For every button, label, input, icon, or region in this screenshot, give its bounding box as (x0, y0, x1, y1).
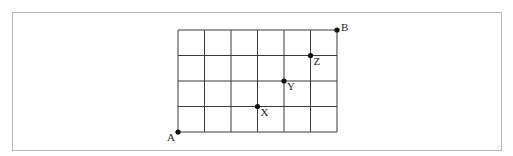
point-label: X (261, 106, 269, 118)
grid-diagram: ABXYZ (0, 0, 513, 156)
point-marker (308, 53, 313, 58)
point-marker (281, 78, 286, 83)
point-label: Z (314, 55, 321, 67)
grid-lines (178, 30, 337, 132)
point-y: Y (281, 78, 295, 92)
point-marker (175, 129, 180, 134)
point-a: A (167, 129, 181, 143)
point-b: B (334, 21, 348, 33)
point-label: A (167, 131, 175, 143)
point-marker (255, 104, 260, 109)
point-marker (334, 27, 339, 32)
point-z: Z (308, 53, 321, 67)
point-x: X (255, 104, 269, 118)
point-label: B (341, 21, 348, 33)
point-label: Y (287, 80, 295, 92)
